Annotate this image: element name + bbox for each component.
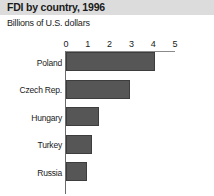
bar-row: Poland: [0, 52, 214, 71]
bar: [66, 135, 92, 154]
bar: [66, 52, 155, 71]
category-label: Turkey: [38, 140, 62, 150]
x-tick-label: 1: [85, 39, 90, 49]
category-label: Russia: [37, 168, 62, 178]
bar-row: Russia: [0, 162, 214, 181]
x-tick-label: 3: [129, 39, 134, 49]
bar: [66, 107, 99, 126]
bar-row: Czech Rep.: [0, 80, 214, 99]
category-label: Poland: [37, 58, 62, 68]
x-tick-label: 5: [172, 39, 177, 49]
x-tick-label: 2: [107, 39, 112, 49]
bar: [66, 80, 130, 99]
bar: [66, 162, 87, 181]
chart-figure: FDI by country, 1996 Billions of U.S. do…: [0, 0, 214, 196]
plot-area: 012345 PolandCzech Rep.HungaryTurkeyRuss…: [0, 0, 214, 196]
x-tick-label: 0: [63, 39, 68, 49]
category-label: Hungary: [31, 113, 62, 123]
bar-row: Hungary: [0, 107, 214, 126]
x-tick-label: 4: [151, 39, 156, 49]
category-label: Czech Rep.: [20, 85, 62, 95]
bar-row: Turkey: [0, 135, 214, 154]
